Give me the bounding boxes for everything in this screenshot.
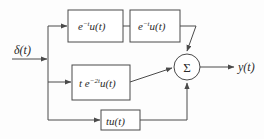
wire-bottom-branch-to-sum — [140, 83, 187, 120]
block-tu-tail: (t) — [115, 115, 126, 128]
block-exp-1-tail: u(t) — [90, 20, 106, 33]
block-tu-label: tu(t) — [106, 115, 125, 128]
block-exp-1-label: e−tu(t) — [78, 20, 106, 33]
output-label-arg: (t) — [243, 60, 254, 74]
block-diagram-canvas: δ(t) e−tu(t) e−tu(t) t e−2tu(t) tu(t) Σ … — [0, 0, 264, 139]
wire-top-branch-to-sum — [180, 26, 196, 51]
diagram-svg: δ(t) e−tu(t) e−tu(t) t e−2tu(t) tu(t) Σ … — [0, 0, 264, 139]
block-exp-2-tail: u(t) — [150, 20, 166, 33]
wire-middle-branch-to-sum — [130, 68, 172, 82]
output-label: y(t) — [237, 60, 255, 74]
input-label-arg: (t) — [20, 43, 31, 57]
block-exp-2-label: e−tu(t) — [138, 20, 166, 33]
block-t-exp-2t-prefix: t e — [79, 77, 90, 89]
block-t-exp-2t-tail: u(t) — [100, 77, 116, 90]
summing-junction-symbol: Σ — [183, 60, 191, 75]
input-label: δ(t) — [14, 43, 31, 57]
